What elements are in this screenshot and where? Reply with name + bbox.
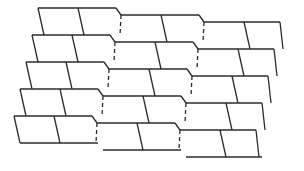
dashed-seam — [120, 15, 121, 35]
cell-divider — [220, 130, 226, 157]
dashed-seam — [114, 42, 115, 62]
cell-divider — [238, 49, 244, 76]
notch-edge — [181, 96, 186, 103]
dashed-seam — [203, 22, 204, 42]
dashed-seam — [191, 76, 192, 96]
notch-edge — [187, 69, 192, 76]
dashed-seam — [197, 49, 198, 69]
row-right-edge — [274, 49, 277, 76]
cell-divider — [244, 22, 250, 49]
cell-divider — [161, 15, 167, 42]
dashed-seam — [96, 123, 97, 143]
cell-divider — [60, 89, 66, 116]
row-right-edge — [268, 76, 271, 103]
dashed-seam — [108, 69, 109, 89]
row-right-edge — [256, 130, 259, 157]
notch-edge — [175, 123, 180, 130]
notch-edge — [116, 8, 121, 15]
cell-divider — [226, 103, 232, 130]
cell-divider — [54, 116, 60, 143]
row-left-edge — [14, 116, 20, 143]
cell-divider — [72, 35, 78, 62]
notch-edge — [92, 116, 97, 123]
cell-divider — [78, 8, 84, 35]
notch-edge — [199, 15, 204, 22]
cell-divider — [149, 69, 155, 96]
cell-divider — [137, 123, 143, 150]
notch-edge — [110, 35, 115, 42]
solid-edges — [14, 8, 283, 157]
dashed-seam — [102, 96, 103, 116]
notch-edge — [98, 89, 103, 96]
notch-edge — [193, 42, 198, 49]
row-left-edge — [32, 35, 38, 62]
cell-divider — [143, 96, 149, 123]
row-left-edge — [26, 62, 32, 89]
notch-edge — [104, 62, 109, 69]
row-left-edge — [20, 89, 26, 116]
cell-divider — [155, 42, 161, 69]
tiling-diagram — [0, 0, 304, 171]
row-right-edge — [262, 103, 265, 130]
row-right-edge — [280, 22, 283, 49]
cell-divider — [66, 62, 72, 89]
cell-divider — [232, 76, 238, 103]
dashed-seam — [179, 130, 180, 150]
row-left-edge — [38, 8, 44, 35]
dashed-seam — [185, 103, 186, 123]
